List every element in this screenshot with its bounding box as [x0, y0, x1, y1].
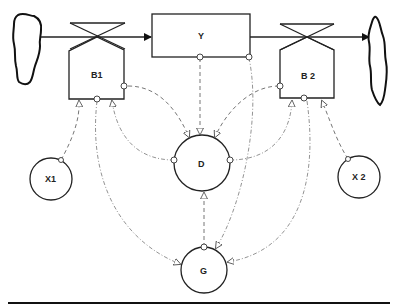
link-b2-to-d — [215, 86, 279, 137]
tap-b1-right — [121, 83, 127, 89]
rate-b2-box — [280, 37, 334, 98]
aux-x2-label: X 2 — [352, 172, 366, 182]
rate-b1-label: B1 — [91, 70, 103, 80]
aux-g-label: G — [200, 266, 207, 276]
link-x1-to-b1 — [61, 101, 79, 160]
link-d-to-b2 — [230, 101, 292, 160]
tap-y-bottom — [197, 54, 203, 60]
source-cloud-icon — [13, 14, 41, 84]
tap-b1-bottom — [94, 96, 100, 102]
aux-x1-label: X1 — [45, 174, 56, 184]
tap-y-right — [246, 54, 252, 60]
rate-b1-box — [69, 37, 124, 99]
link-y-to-g — [216, 58, 253, 248]
aux-d-label: D — [198, 159, 205, 169]
stock-flow-diagram: B1 Y B 2 D X1 X 2 G — [0, 0, 394, 306]
tap-b2-left — [277, 83, 283, 89]
link-b1-to-d — [128, 86, 189, 137]
link-x2-to-b2 — [322, 101, 348, 159]
link-b2-to-g — [228, 101, 310, 262]
link-b1-to-g — [96, 101, 180, 264]
stock-y-label: Y — [198, 31, 204, 41]
tap-d-left — [171, 157, 177, 163]
sink-cloud-icon — [368, 17, 386, 105]
rate-b2-label: B 2 — [301, 71, 315, 81]
link-d-to-b1 — [112, 101, 174, 160]
tap-b2-bottom — [301, 95, 307, 101]
tap-d-right — [227, 157, 233, 163]
tap-g-top — [201, 244, 207, 250]
valve-b1-icon — [70, 23, 125, 49]
tap-x2 — [346, 157, 351, 162]
tap-x1 — [59, 158, 64, 163]
